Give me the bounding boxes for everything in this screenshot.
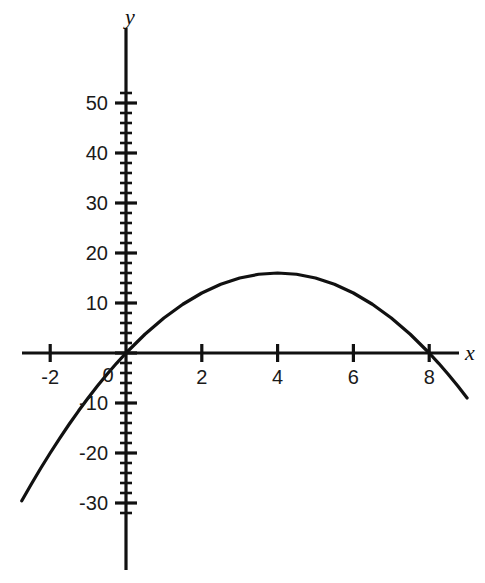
y-axis-tick-labels: -30-20-101020304050	[79, 92, 108, 514]
y-tick-label: -30	[79, 492, 108, 514]
y-tick-label: 40	[86, 142, 108, 164]
x-tick-label: 8	[424, 366, 435, 388]
y-tick-label: 50	[86, 92, 108, 114]
x-tick-label: 6	[348, 366, 359, 388]
graph-figure: -202468 -30-20-101020304050 x y	[0, 0, 485, 583]
x-tick-label: 4	[272, 366, 283, 388]
x-axis-label: x	[464, 340, 475, 365]
y-tick-label: 30	[86, 192, 108, 214]
x-tick-label: 2	[196, 366, 207, 388]
y-axis-label: y	[123, 4, 135, 29]
x-tick-label: -2	[41, 366, 59, 388]
y-tick-label: -10	[79, 392, 108, 414]
y-tick-label: 20	[86, 242, 108, 264]
coordinate-plane-svg: -202468 -30-20-101020304050 x y	[0, 0, 485, 583]
x-tick-label: 0	[102, 364, 113, 386]
y-tick-label: 10	[86, 292, 108, 314]
y-tick-label: -20	[79, 442, 108, 464]
